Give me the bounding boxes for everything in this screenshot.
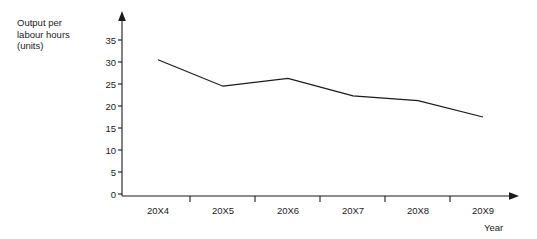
y-tick-label: 20	[92, 101, 116, 112]
line-chart: Output per labour hours (units) Year	[0, 0, 537, 239]
x-category-label: 20X8	[398, 205, 438, 216]
x-axis-arrow	[509, 192, 519, 200]
x-category-label: 20X4	[138, 205, 178, 216]
x-category-label: 20X9	[463, 205, 503, 216]
y-tick-label: 10	[92, 145, 116, 156]
x-category-label: 20X7	[333, 205, 373, 216]
x-category-label: 20X6	[268, 205, 308, 216]
x-category-label: 20X5	[203, 205, 243, 216]
y-tick-label: 35	[92, 35, 116, 46]
data-series-line	[158, 60, 483, 117]
y-tick-label: 5	[92, 167, 116, 178]
x-axis-ticks	[190, 196, 450, 202]
plot-area	[0, 0, 537, 239]
y-axis-ticks	[118, 40, 122, 194]
y-tick-label: 25	[92, 79, 116, 90]
y-tick-label: 0	[92, 189, 116, 200]
y-axis-arrow	[118, 11, 126, 21]
y-tick-label: 30	[92, 57, 116, 68]
y-tick-label: 15	[92, 123, 116, 134]
